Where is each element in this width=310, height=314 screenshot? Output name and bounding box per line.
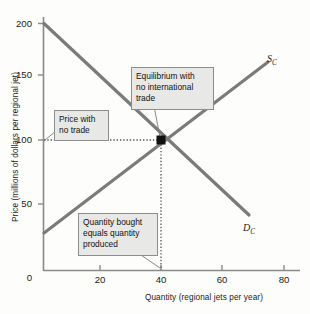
x-tick-label-20: 20 (87, 274, 113, 285)
x-tick-label-60: 60 (209, 274, 235, 285)
y-axis-ticks (38, 24, 44, 205)
x-tick-label-80: 80 (271, 274, 297, 285)
price-callout: Price with no trade (54, 110, 109, 141)
demand-curve-label: DC (243, 222, 255, 236)
y-axis-title: Price (millions of dollars per regional … (11, 26, 20, 222)
equilibrium-marker (157, 136, 166, 145)
quantity-callout: Quantity bought equals quantity produced (78, 213, 158, 256)
supply-curve-label-sub: C (272, 59, 277, 67)
x-tick-label-40: 40 (148, 274, 174, 285)
x-axis-ticks (100, 265, 284, 271)
chart-canvas (0, 0, 310, 314)
supply-curve-label: SC (267, 53, 277, 67)
y-tick-label-0: 0 (6, 272, 32, 283)
demand-curve-label-sub: C (250, 228, 255, 236)
supply-demand-chart: 200 150 100 50 0 20 40 60 80 Price (mill… (0, 0, 310, 314)
equilibrium-callout: Equilibrium with no international trade (131, 67, 214, 110)
x-axis-title: Quantity (regional jets per year) (145, 293, 263, 302)
